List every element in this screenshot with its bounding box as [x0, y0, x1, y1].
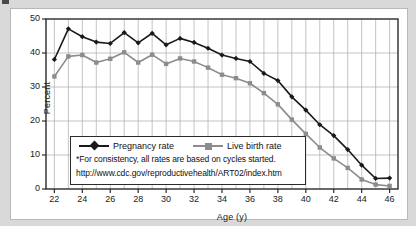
y-tick-label: 30: [18, 81, 40, 91]
x-tick-label: 24: [71, 194, 93, 204]
legend-marker-diamond-icon: [79, 140, 109, 152]
x-axis-label: Age (y): [56, 212, 408, 222]
y-tick-label: 40: [18, 47, 40, 57]
legend-label-live-birth-rate: Live birth rate: [227, 141, 282, 151]
x-tick-label: 30: [155, 194, 177, 204]
legend-item-pregnancy-rate[interactable]: Pregnancy rate: [79, 139, 174, 153]
x-tick-label: 34: [211, 194, 233, 204]
chart-legend: Pregnancy rate Live birth rate *For cons…: [70, 136, 306, 185]
x-tick-label: 26: [99, 194, 121, 204]
legend-marker-square-icon: [193, 140, 223, 152]
figure-container: Percent Age (y) 01020304050 222426283032…: [0, 0, 416, 226]
x-tick-label: 40: [295, 194, 317, 204]
chart-frame: Percent Age (y) 01020304050 222426283032…: [10, 8, 408, 220]
legend-entries-row: Pregnancy rate Live birth rate: [71, 139, 307, 153]
x-tick-label: 36: [239, 194, 261, 204]
corner-artifact-mark: [2, 0, 9, 4]
y-tick-label: 50: [18, 13, 40, 23]
x-tick-label: 32: [183, 194, 205, 204]
y-tick-label: 0: [18, 183, 40, 193]
x-tick-label: 22: [43, 194, 65, 204]
y-tick-label: 20: [18, 115, 40, 125]
legend-item-live-birth-rate[interactable]: Live birth rate: [193, 139, 282, 153]
legend-footnote-consistency: *For consistency, all rates are based on…: [76, 154, 276, 164]
y-tick-label: 10: [18, 149, 40, 159]
y-axis-label: Percent: [42, 58, 52, 138]
chart-plot-svg: [11, 9, 405, 217]
x-tick-label: 38: [267, 194, 289, 204]
x-tick-label: 44: [351, 194, 373, 204]
x-tick-label: 46: [379, 194, 401, 204]
x-tick-label: 28: [127, 194, 149, 204]
x-tick-label: 42: [323, 194, 345, 204]
legend-footnote-url: http://www.cdc.gov/reproductivehealth/AR…: [76, 168, 282, 178]
legend-label-pregnancy-rate: Pregnancy rate: [113, 141, 174, 151]
